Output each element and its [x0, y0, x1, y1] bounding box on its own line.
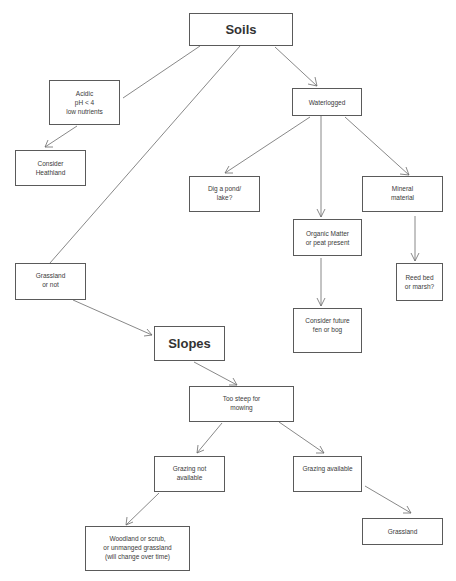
node-label: or not	[42, 280, 59, 289]
node-label: low nutrients	[66, 107, 103, 116]
edge-soils-acidic	[123, 46, 200, 98]
node-label: Waterlogged	[309, 98, 346, 107]
node-reed-bed: Reed bed or marsh?	[396, 263, 443, 301]
node-grassland-or-not: Grassland or not	[15, 263, 86, 300]
node-label: Acidic	[76, 89, 93, 98]
node-label: lake?	[217, 193, 233, 202]
edge-toosteep-grazingavail	[279, 422, 324, 453]
node-label: Slopes	[168, 336, 211, 351]
edge-waterlogged-mineral	[345, 117, 409, 175]
node-consider-heathland: Consider Heathland	[15, 150, 86, 186]
node-label: Consider future	[305, 316, 349, 325]
node-label: or marsh?	[405, 282, 434, 291]
node-label: or peat present	[306, 238, 350, 247]
node-label: Grazing available	[302, 464, 352, 473]
node-label: Soils	[225, 22, 256, 37]
node-label: Consider	[37, 159, 63, 168]
node-label: pH < 4	[75, 98, 94, 107]
edge-waterlogged-pond	[225, 117, 310, 173]
node-label: Grassland	[388, 527, 418, 536]
node-soils: Soils	[189, 13, 293, 46]
node-label: fen or bog	[313, 325, 342, 334]
node-label: (will change over time)	[105, 552, 170, 561]
node-label: Dig a pond/	[208, 184, 241, 193]
node-woodland: Woodland or scrub, or unmanged grassland…	[85, 526, 190, 571]
node-label: Heathland	[36, 168, 66, 177]
edge-grazingavail-grassland	[365, 486, 411, 513]
node-label: Woodland or scrub,	[109, 534, 165, 543]
edge-slopes-toosteep	[194, 362, 237, 385]
node-label: mowing	[230, 403, 252, 412]
node-slopes: Slopes	[154, 326, 225, 361]
edge-acidic-heathland	[45, 126, 77, 147]
node-label: available	[177, 473, 203, 482]
node-label: Reed bed	[405, 273, 433, 282]
node-label: Organic Matter	[306, 229, 349, 238]
node-organic-matter: Organic Matter or peat present	[293, 219, 362, 256]
node-label: material	[391, 193, 414, 202]
node-mineral-material: Mineral material	[362, 176, 443, 212]
edge-toosteep-grazingnot	[197, 423, 222, 453]
node-label: Grassland	[36, 271, 66, 280]
node-label: Mineral	[392, 184, 413, 193]
node-acidic: Acidic pH < 4 low nutrients	[49, 80, 120, 125]
node-grassland: Grassland	[362, 518, 443, 545]
edge-grazingnot-woodland	[126, 493, 159, 525]
node-too-steep: Too steep for mowing	[189, 386, 294, 422]
node-label: Too steep for	[223, 394, 261, 403]
node-label: Grazing not	[173, 464, 207, 473]
node-label: or unmanged grassland	[103, 543, 171, 552]
node-grazing-not-available: Grazing not available	[154, 456, 225, 492]
arrowhead-icon	[144, 329, 152, 336]
node-waterlogged: Waterlogged	[292, 88, 362, 116]
node-consider-fen: Consider future fen or bog	[293, 308, 362, 353]
node-grazing-available: Grazing available	[293, 456, 362, 492]
edge-soils-waterlogged	[275, 47, 317, 86]
node-dig-pond: Dig a pond/ lake?	[189, 176, 260, 212]
edge-grassland-slopes	[73, 300, 152, 335]
